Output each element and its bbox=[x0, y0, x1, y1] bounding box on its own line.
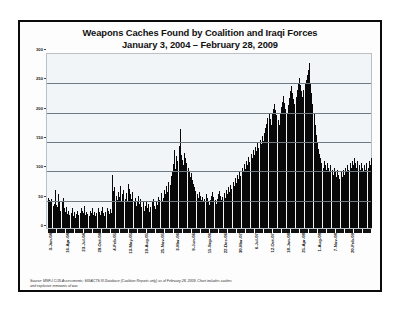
x-tick-label: 20-Feb-09 bbox=[350, 233, 355, 253]
y-tick-label: 250 bbox=[36, 76, 43, 81]
x-tick-label: 13-May-05 bbox=[128, 233, 133, 254]
y-tick-label: 0 bbox=[41, 223, 43, 228]
y-tick-label: 100 bbox=[36, 164, 43, 169]
source-line-2: and explosive remnants of war. bbox=[30, 284, 378, 289]
x-tick-label: 9-Jun-06 bbox=[191, 233, 196, 251]
x-tick-label: 25-Nov-05 bbox=[160, 233, 165, 254]
chart-title-line1: Weapons Caches Found by Coalition and Ir… bbox=[20, 27, 380, 39]
source-note: Source: MNF-I C/J5 Assessments; SIGACTS … bbox=[30, 279, 378, 288]
chart-title-line2: January 3, 2004 – February 28, 2009 bbox=[20, 39, 380, 51]
chart-frame: Weapons Caches Found by Coalition and Ir… bbox=[18, 20, 382, 292]
x-tick-label: 25-Apr-08 bbox=[301, 233, 306, 253]
x-tick-label: 1-Aug-08 bbox=[317, 233, 322, 251]
x-tick-label: 29-Oct-04 bbox=[97, 233, 102, 253]
y-tick-mark bbox=[44, 49, 46, 50]
gridline bbox=[47, 83, 371, 84]
bar bbox=[371, 158, 372, 228]
y-tick-label: 50 bbox=[38, 193, 43, 198]
x-tick-label: 12-Oct-07 bbox=[270, 233, 275, 253]
x-tick-label: 7-Nov-08 bbox=[333, 233, 338, 251]
y-tick-label: 300 bbox=[36, 47, 43, 52]
x-tick-label: 23-Jul-04 bbox=[81, 233, 86, 252]
chart-title: Weapons Caches Found by Coalition and Ir… bbox=[20, 27, 380, 50]
y-axis: 050100150200250300 bbox=[22, 48, 46, 229]
x-tick-label: 6-Jul-07 bbox=[254, 233, 259, 249]
plot-area bbox=[46, 53, 372, 229]
gridline bbox=[47, 171, 371, 172]
x-tick-label: 18-Jan-08 bbox=[286, 233, 291, 253]
x-tick-label: 3-Jan-04 bbox=[48, 233, 53, 250]
x-tick-label: 4-Feb-05 bbox=[112, 233, 117, 251]
x-axis-labels: 3-Jan-0416-Apr-0423-Jul-0429-Oct-044-Feb… bbox=[46, 233, 372, 277]
gridline bbox=[47, 142, 371, 143]
gridline bbox=[47, 201, 371, 202]
gridline bbox=[47, 113, 371, 114]
x-tick-label: 3-Mar-06 bbox=[175, 233, 180, 251]
plot-background bbox=[46, 53, 372, 229]
y-tick-label: 150 bbox=[36, 135, 43, 140]
x-tick-label: 22-Dec-06 bbox=[223, 233, 228, 253]
x-tick-label: 19-Aug-05 bbox=[144, 233, 149, 254]
y-tick-label: 200 bbox=[36, 105, 43, 110]
x-tick-label: 30-Mar-07 bbox=[238, 233, 243, 253]
x-tick-label: 16-Apr-04 bbox=[65, 233, 70, 253]
x-tick-label: 15-Sep-06 bbox=[207, 233, 212, 253]
